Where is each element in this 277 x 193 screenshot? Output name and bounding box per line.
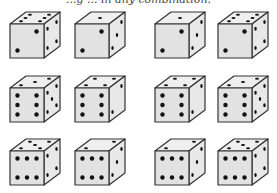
- die-1: [8, 10, 62, 60]
- die-10: [73, 137, 127, 187]
- die-5: [8, 74, 62, 124]
- die-7: [153, 74, 207, 124]
- die-6: [73, 74, 127, 124]
- die-2: [73, 10, 127, 60]
- die-12: [216, 137, 270, 187]
- die-3: [153, 10, 207, 60]
- die-4: [216, 10, 270, 60]
- die-9: [8, 137, 62, 187]
- caption: ...g ... in any combination.: [0, 0, 277, 6]
- die-11: [153, 137, 207, 187]
- die-8: [216, 74, 270, 124]
